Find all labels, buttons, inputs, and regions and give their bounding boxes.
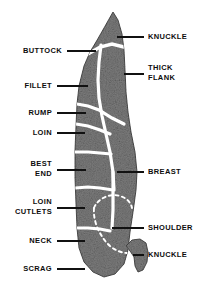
label-shoulder-line-1: SHOULDER [148, 223, 193, 232]
carcass-cuts-diagram: BUTTOCKFILLETRUMPLOINBESTENDLOINCUTLETSN… [0, 0, 207, 297]
carcass-body-shape [75, 12, 137, 277]
label-best-end-line-1: BEST [31, 159, 52, 168]
label-buttock: BUTTOCK [23, 46, 62, 56]
label-rump: RUMP [29, 108, 52, 118]
label-loin-line-1: LOIN [33, 128, 52, 137]
label-best-end: BESTEND [31, 159, 52, 178]
label-loin-cutlets-line-1: LOIN [33, 197, 52, 206]
label-knuckle-top-line-1: KNUCKLE [148, 32, 187, 41]
label-buttock-line-1: BUTTOCK [23, 46, 62, 55]
label-rump-line-1: RUMP [29, 108, 52, 117]
label-knuckle-bot-line-1: KNUCKLE [148, 250, 187, 259]
carcass-silhouette [75, 12, 137, 277]
label-shoulder: SHOULDER [148, 223, 193, 233]
label-thick-flank: THICKFLANK [148, 63, 175, 82]
label-scrag-line-1: SCRAG [23, 264, 52, 273]
label-thick-flank-line-1: THICK [148, 63, 173, 72]
label-breast-line-1: BREAST [148, 167, 181, 176]
label-loin-cutlets-line-2: CUTLETS [15, 207, 52, 217]
sep-breast-vertical [112, 172, 113, 228]
label-neck-line-1: NECK [29, 236, 52, 245]
label-knuckle-bot: KNUCKLE [148, 250, 187, 260]
label-best-end-line-2: END [31, 169, 52, 179]
label-thick-flank-line-2: FLANK [148, 73, 175, 83]
label-scrag: SCRAG [23, 264, 52, 274]
label-loin: LOIN [33, 128, 52, 138]
label-neck: NECK [29, 236, 52, 246]
label-loin-cutlets: LOINCUTLETS [15, 197, 52, 216]
label-knuckle-top: KNUCKLE [148, 32, 187, 42]
label-breast: BREAST [148, 167, 181, 177]
label-fillet-line-1: FILLET [24, 81, 52, 90]
label-fillet: FILLET [24, 81, 52, 91]
